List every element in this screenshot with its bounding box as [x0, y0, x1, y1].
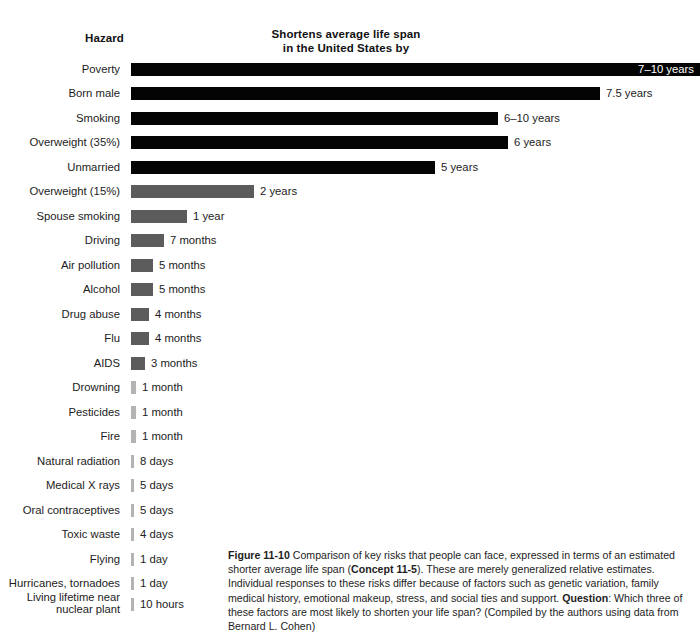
column-header-metric: Shortens average life span in the United…	[186, 28, 506, 55]
row-category-label: Poverty	[0, 63, 120, 76]
bar-value-label: 7 months	[170, 234, 216, 247]
bar	[131, 381, 136, 394]
chart-row: Overweight (35%)6 years	[0, 136, 700, 158]
chart-row: Drowning1 month	[0, 381, 700, 403]
bar-value-label: 2 years	[260, 185, 297, 198]
chart-row: Oral contraceptives5 days	[0, 504, 700, 526]
row-category-label: Natural radiation	[0, 455, 120, 468]
bar-value-label: 1 month	[142, 406, 183, 419]
row-category-label: AIDS	[0, 357, 120, 370]
bar-value-label: 5 days	[140, 504, 173, 517]
bar	[131, 112, 498, 125]
bar	[131, 259, 153, 272]
chart-row: Natural radiation8 days	[0, 455, 700, 477]
bar	[131, 357, 145, 370]
row-category-label: Overweight (35%)	[0, 136, 120, 149]
bar-value-label: 1 month	[142, 430, 183, 443]
row-category-label: Toxic waste	[0, 528, 120, 541]
bar	[131, 308, 149, 321]
bar	[131, 479, 134, 492]
bar-value-label: 1 day	[140, 553, 168, 566]
column-header-hazard: Hazard	[0, 32, 124, 44]
bar-value-label: 1 year	[193, 210, 224, 223]
row-category-label: Driving	[0, 234, 120, 247]
bar	[131, 577, 134, 590]
figure-caption: Figure 11-10 Comparison of key risks tha…	[228, 548, 686, 633]
row-category-label: Drug abuse	[0, 308, 120, 321]
caption-question-label: Question	[562, 592, 608, 604]
row-category-label: Alcohol	[0, 283, 120, 296]
row-category-label: Flying	[0, 553, 120, 566]
bar-value-label: 1 day	[140, 577, 168, 590]
chart-row: Spouse smoking1 year	[0, 210, 700, 232]
bar-value-label: 5 years	[441, 161, 478, 174]
chart-row: Medical X rays5 days	[0, 479, 700, 501]
bar	[131, 87, 600, 100]
chart-row: Overweight (15%)2 years	[0, 185, 700, 207]
chart-row: Poverty7–10 years	[0, 63, 700, 85]
chart-row: Air pollution5 months	[0, 259, 700, 281]
row-category-label: Air pollution	[0, 259, 120, 272]
bar	[131, 210, 187, 223]
bar	[131, 598, 134, 611]
bar-value-label: 10 hours	[140, 598, 184, 611]
bar	[131, 63, 700, 76]
row-category-label: Overweight (15%)	[0, 185, 120, 198]
bar	[131, 234, 164, 247]
caption-figure-number: Figure 11-10	[228, 549, 290, 561]
bar-value-label: 5 months	[159, 283, 205, 296]
bar	[131, 553, 134, 566]
bar	[131, 136, 508, 149]
chart-row: Fire1 month	[0, 430, 700, 452]
bar-value-label: 5 months	[159, 259, 205, 272]
row-category-label: Pesticides	[0, 406, 120, 419]
row-category-label: Born male	[0, 87, 120, 100]
bar-value-label: 8 days	[140, 455, 173, 468]
bar	[131, 332, 149, 345]
row-category-label: Smoking	[0, 112, 120, 125]
bar	[131, 430, 136, 443]
bar-value-label: 7.5 years	[606, 87, 652, 100]
row-category-label: Oral contraceptives	[0, 504, 120, 517]
bar-value-label: 4 days	[140, 528, 173, 541]
bar	[131, 406, 136, 419]
chart-row: Drug abuse4 months	[0, 308, 700, 330]
caption-concept-ref: Concept 11-5	[351, 563, 417, 575]
bar-value-label: 6 years	[514, 136, 551, 149]
row-category-label: Spouse smoking	[0, 210, 120, 223]
bar-value-label: 6–10 years	[504, 112, 560, 125]
row-category-label: Flu	[0, 332, 120, 345]
bar	[131, 455, 134, 468]
chart-row: Driving7 months	[0, 234, 700, 256]
bar-value-label: 5 days	[140, 479, 173, 492]
bar-value-label: 3 months	[151, 357, 197, 370]
bar	[131, 504, 134, 517]
chart-row: Alcohol5 months	[0, 283, 700, 305]
chart-row: Flu4 months	[0, 332, 700, 354]
chart-row: Smoking6–10 years	[0, 112, 700, 134]
chart-row: Unmarried5 years	[0, 161, 700, 183]
chart-row: AIDS3 months	[0, 357, 700, 379]
bar-value-label: 4 months	[155, 308, 201, 321]
row-category-label: Medical X rays	[0, 479, 120, 492]
bar	[131, 185, 254, 198]
metric-header-line-2: in the United States by	[283, 42, 409, 54]
row-category-label: Hurricanes, tornadoes	[0, 577, 120, 590]
row-category-label: Fire	[0, 430, 120, 443]
chart-row: Pesticides1 month	[0, 406, 700, 428]
row-category-label: Drowning	[0, 381, 120, 394]
bar-value-label: 4 months	[155, 332, 201, 345]
bar-value-label: 1 month	[142, 381, 183, 394]
chart-row: Born male7.5 years	[0, 87, 700, 109]
bar	[131, 528, 134, 541]
row-category-label: Unmarried	[0, 161, 120, 174]
figure-11-10: Hazard Shortens average life span in the…	[0, 0, 700, 640]
bar	[131, 161, 435, 174]
row-category-label: Living lifetime near nuclear plant	[0, 592, 120, 615]
bar-value-label: 7–10 years	[638, 63, 694, 76]
bar	[131, 283, 153, 296]
metric-header-line-1: Shortens average life span	[272, 28, 421, 40]
chart-row: Toxic waste4 days	[0, 528, 700, 550]
